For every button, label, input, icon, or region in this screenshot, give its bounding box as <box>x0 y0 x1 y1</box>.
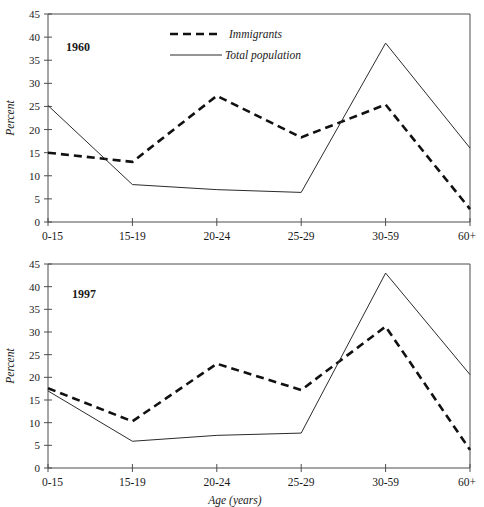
y-axis-title: Percent <box>4 100 16 137</box>
panel-year-label: 1997 <box>72 287 96 301</box>
y-tick-label: 0 <box>35 216 41 228</box>
x-tick-label: 15-19 <box>119 476 146 488</box>
panel-year-label: 1960 <box>66 40 90 54</box>
line-chart-1997: 051015202530354045Percent0-1515-1920-242… <box>0 254 484 507</box>
y-tick-label: 35 <box>29 303 41 315</box>
x-tick-label: 30-59 <box>372 230 399 242</box>
y-tick-label: 25 <box>29 349 41 361</box>
x-tick-label: 60+ <box>458 476 476 488</box>
x-tick-label: 20-24 <box>203 230 230 242</box>
y-tick-label: 20 <box>29 371 41 383</box>
line-chart-1960: 051015202530354045Percent0-1515-1920-242… <box>0 0 484 254</box>
y-tick-label: 15 <box>29 147 41 159</box>
y-tick-label: 25 <box>29 100 41 112</box>
y-tick-label: 35 <box>29 54 41 66</box>
y-axis: 051015202530354045 <box>29 258 52 474</box>
x-tick-label: 30-59 <box>372 476 399 488</box>
y-tick-label: 5 <box>35 193 41 205</box>
y-tick-label: 20 <box>29 124 41 136</box>
y-axis-title: Percent <box>4 348 16 385</box>
y-tick-label: 15 <box>29 394 41 406</box>
x-tick-label: 25-29 <box>288 476 315 488</box>
x-axis-title: Age (years) <box>207 494 261 507</box>
x-tick-label: 0-15 <box>42 476 63 488</box>
x-tick-label: 20-24 <box>203 476 230 488</box>
y-tick-label: 40 <box>29 281 41 293</box>
y-tick-label: 5 <box>35 439 41 451</box>
x-tick-label: 15-19 <box>119 230 146 242</box>
series-line-immigrants <box>48 96 470 209</box>
series-line-immigrants <box>48 327 470 450</box>
chart-legend: ImmigrantsTotal population <box>170 28 301 62</box>
y-tick-label: 10 <box>29 417 41 429</box>
figure-container: 051015202530354045Percent0-1515-1920-242… <box>0 0 484 507</box>
x-tick-label: 60+ <box>458 230 476 242</box>
y-tick-label: 45 <box>29 8 41 20</box>
y-tick-label: 30 <box>29 326 41 338</box>
y-axis: 051015202530354045 <box>29 8 52 228</box>
plot-frame <box>48 264 470 468</box>
y-tick-label: 45 <box>29 258 41 270</box>
chart-panel-1960: 051015202530354045Percent0-1515-1920-242… <box>0 0 484 254</box>
y-tick-label: 0 <box>35 462 41 474</box>
x-tick-label: 25-29 <box>288 230 315 242</box>
y-tick-label: 10 <box>29 170 41 182</box>
x-tick-label: 0-15 <box>42 230 63 242</box>
series-line-total-population <box>48 273 470 441</box>
y-tick-label: 40 <box>29 31 41 43</box>
y-tick-label: 30 <box>29 77 41 89</box>
legend-label-immigrants: Immigrants <box>228 28 283 41</box>
chart-panel-1997: 051015202530354045Percent0-1515-1920-242… <box>0 254 484 507</box>
legend-label-total-population: Total population <box>225 49 301 62</box>
